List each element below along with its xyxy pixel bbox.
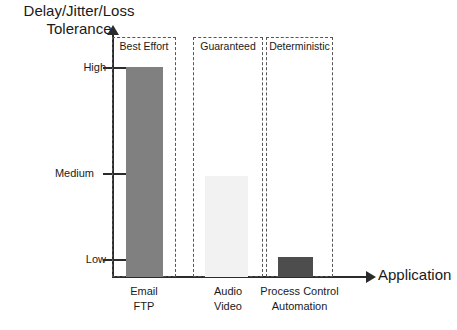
group-label-deterministic: Deterministic — [266, 40, 333, 52]
group-box-deterministic — [266, 37, 333, 277]
y-tick-label-high: High — [40, 61, 106, 73]
bar-email-ftp — [126, 67, 163, 277]
group-label-guaranteed: Guaranteed — [193, 40, 263, 52]
bar-process-control-automation — [278, 257, 313, 277]
bar-audio-video — [205, 176, 248, 277]
x-category-label-process-control-automation: Process Control Automation — [256, 284, 343, 314]
y-tick-label-medium: Medium — [28, 167, 94, 179]
x-category-label-email-ftp: Email FTP — [112, 284, 176, 314]
x-axis-arrow-icon — [366, 271, 376, 283]
group-label-best-effort: Best Effort — [112, 40, 176, 52]
y-tick-label-low: Low — [40, 253, 106, 265]
x-category-label-audio-video: Audio Video — [193, 284, 263, 314]
y-axis-title: Delay/Jitter/Loss Tolerance — [4, 2, 154, 38]
x-axis-title: Application — [378, 266, 451, 283]
chart-container: Delay/Jitter/Loss Tolerance Application … — [0, 0, 457, 330]
